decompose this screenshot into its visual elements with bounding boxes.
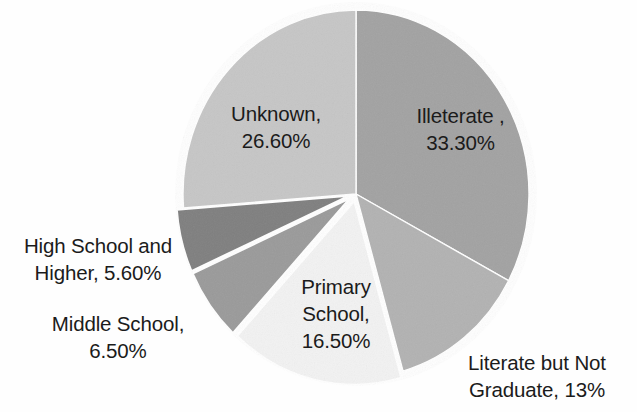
- pie-grain-texture: [175, 2, 537, 386]
- pie-chart-canvas: [0, 0, 637, 412]
- pie-chart-figure: Illeterate , 33.30% Literate but Not Gra…: [0, 0, 637, 412]
- pie-grain-overlay: [175, 2, 537, 386]
